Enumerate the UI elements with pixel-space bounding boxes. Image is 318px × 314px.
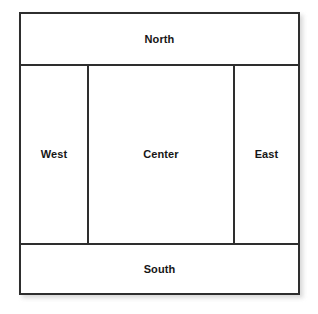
region-north[interactable]: North bbox=[21, 14, 298, 66]
border-layout-frame: North West Center East South bbox=[19, 12, 300, 295]
diagram-canvas: North West Center East South bbox=[0, 0, 318, 314]
region-south-label: South bbox=[144, 264, 176, 275]
region-south[interactable]: South bbox=[21, 245, 298, 293]
region-center-label: Center bbox=[143, 149, 178, 160]
middle-row: West Center East bbox=[21, 66, 298, 245]
region-north-label: North bbox=[145, 34, 175, 45]
region-west-label: West bbox=[41, 149, 67, 160]
region-center[interactable]: Center bbox=[89, 66, 235, 243]
region-east[interactable]: East bbox=[235, 66, 298, 243]
region-west[interactable]: West bbox=[21, 66, 89, 243]
region-east-label: East bbox=[255, 149, 279, 160]
